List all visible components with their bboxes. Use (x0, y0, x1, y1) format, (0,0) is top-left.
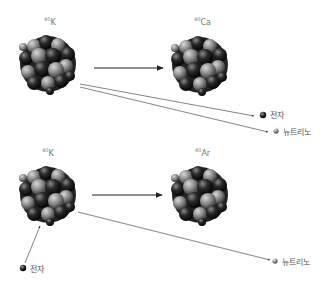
neutrino-particle (272, 258, 277, 263)
bottom-neutrino-label: 뉴트리노 (282, 256, 310, 267)
potassium-40-nucleus (19, 166, 76, 226)
top-neutrino-label: 뉴트리노 (283, 126, 311, 137)
calcium-40-nucleus (171, 36, 228, 96)
electron-particle (260, 112, 266, 118)
neutrino-particle (273, 128, 278, 133)
reaction-arrows (0, 0, 331, 293)
argon-40-nucleus (171, 166, 228, 226)
potassium-40-nucleus (19, 35, 76, 95)
electron-particle (20, 265, 26, 271)
top-electron-label: 전자 (270, 109, 284, 120)
bottom-electron-label: 전자 (30, 263, 44, 274)
